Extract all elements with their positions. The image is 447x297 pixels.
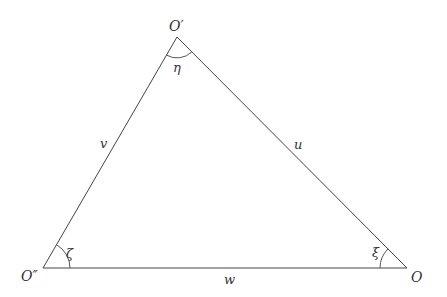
vertex-label-bottom-left: O″ [21, 268, 38, 284]
angle-arc-bottom-right [380, 249, 388, 268]
angle-label-top: η [173, 60, 181, 75]
angle-label-bottom-left: ζ [66, 246, 74, 261]
angle-arc-top [167, 52, 192, 58]
vertex-label-bottom-right: O [411, 269, 423, 285]
side-left-edge [43, 37, 177, 268]
side-label-bottom: w [224, 272, 235, 287]
vertex-label-top: O′ [169, 18, 184, 34]
triangle-diagram: O′ O″ O v u w η ζ ξ [0, 0, 447, 297]
side-label-right: u [294, 137, 302, 152]
angle-label-bottom-right: ξ [372, 245, 380, 260]
side-label-left: v [100, 136, 108, 151]
side-right-edge [177, 37, 407, 268]
